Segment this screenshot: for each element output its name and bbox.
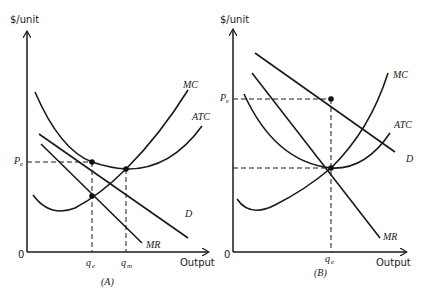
panel-a-x-axis-label: Output bbox=[180, 257, 215, 268]
panel-a: $/unit 0 Output MC ATC D MR P e q bbox=[10, 14, 215, 288]
panel-a-d-label: D bbox=[184, 208, 193, 219]
svg-text:e: e bbox=[20, 160, 23, 168]
svg-text:e: e bbox=[226, 97, 229, 105]
panel-a-mr-label: MR bbox=[145, 239, 160, 250]
svg-text:q: q bbox=[121, 257, 126, 268]
panel-a-mc-curve bbox=[33, 90, 188, 211]
panel-a-atc-curve bbox=[35, 92, 202, 169]
panel-b-mr-curve bbox=[252, 73, 380, 238]
diagram-canvas: $/unit 0 Output MC ATC D MR P e q bbox=[0, 0, 425, 291]
panel-b-mr-label: MR bbox=[382, 231, 397, 242]
svg-text:q: q bbox=[86, 257, 91, 268]
svg-text:m: m bbox=[127, 262, 132, 270]
panel-b-origin-label: 0 bbox=[224, 249, 230, 260]
svg-text:e: e bbox=[92, 262, 95, 270]
panel-a-demand-curve bbox=[39, 134, 188, 238]
panel-a-atc-label: ATC bbox=[191, 111, 210, 122]
panel-b: $/unit 0 Output MC ATC D MR P e q bbox=[219, 14, 414, 279]
panel-b-d-label: D bbox=[405, 153, 414, 164]
panel-a-point-qm bbox=[123, 166, 129, 172]
panel-a-qe-label: q e bbox=[86, 257, 95, 270]
panel-b-mc-label: MC bbox=[392, 69, 408, 80]
panel-b-x-axis-label: Output bbox=[376, 257, 411, 268]
panel-b-pe-label: P e bbox=[219, 92, 229, 105]
panel-a-point-pe-qe bbox=[89, 159, 95, 165]
panel-b-qe-label: q e bbox=[325, 253, 334, 266]
panel-b-caption: (B) bbox=[314, 267, 327, 279]
panel-a-caption: (A) bbox=[101, 276, 114, 288]
svg-text:q: q bbox=[325, 253, 330, 264]
panel-b-atc-label: ATC bbox=[393, 119, 412, 130]
svg-text:e: e bbox=[331, 258, 334, 266]
panel-b-demand-curve bbox=[255, 53, 395, 152]
panel-a-mc-label: MC bbox=[182, 79, 198, 90]
panel-a-pe-label: P e bbox=[13, 155, 23, 168]
panel-a-point-mr-mc bbox=[89, 193, 95, 199]
panel-b-point-atc-min bbox=[328, 165, 334, 171]
panel-a-qm-label: q m bbox=[121, 257, 132, 270]
panel-a-origin-label: 0 bbox=[18, 249, 24, 260]
panel-a-y-axis-label: $/unit bbox=[10, 14, 39, 25]
panel-b-y-axis-label: $/unit bbox=[220, 14, 249, 25]
panel-b-point-pe-qe bbox=[328, 96, 334, 102]
